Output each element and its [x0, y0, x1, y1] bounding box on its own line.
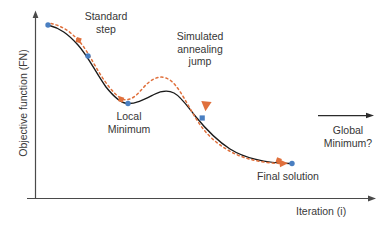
annotation-global-minimum: Global Minimum? [312, 124, 384, 149]
marker-start-point [45, 22, 50, 27]
x-axis-label: Iteration (i) [296, 205, 372, 218]
marker-post-jump-landing [200, 115, 205, 120]
annealing-jump-arrow [199, 100, 211, 112]
annotation-simulated-annealing-jump: Simulated annealing jump [163, 30, 237, 68]
y-axis-label: Objective function (FN) [17, 28, 29, 178]
annotation-standard-step: Standard step [70, 10, 142, 35]
x-axis-arrowhead [368, 196, 376, 202]
simulated-annealing-figure: Objective function (FN) Iteration (i) St… [0, 0, 392, 230]
global-minimum-arrow [318, 113, 374, 119]
annotation-final-solution: Final solution [240, 170, 336, 183]
marker-local-minimum [125, 101, 130, 106]
y-axis-arrowhead [33, 11, 39, 19]
marker-final-solution [289, 161, 294, 166]
annotation-local-minimum: Local Minimum [96, 110, 162, 135]
marker-standard-step [85, 53, 90, 58]
